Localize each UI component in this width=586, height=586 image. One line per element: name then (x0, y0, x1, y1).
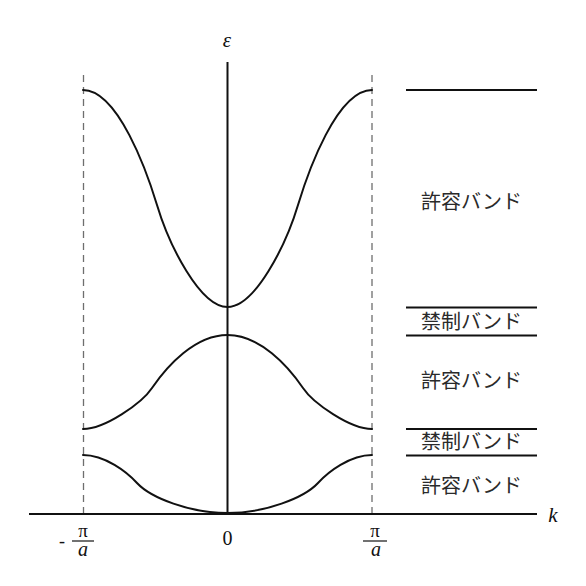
diagram-svg: ε k - π a 0 π a 許容バンド 禁制バンド 許容バンド 禁制 (0, 0, 586, 586)
tick-pi-over-a: π a (363, 520, 387, 560)
allowed-band-label-upper: 許容バンド (421, 190, 522, 214)
band-structure-diagram: ε k - π a 0 π a 許容バンド 禁制バンド 許容バンド 禁制 (0, 0, 586, 586)
allowed-band-label-middle: 許容バンド (421, 369, 522, 393)
tick-minus-pi-over-a: - π a (59, 520, 94, 560)
forbidden-band-label-upper: 禁制バンド (421, 310, 522, 334)
tick-minus-sign: - (59, 531, 65, 551)
forbidden-band-label-lower: 禁制バンド (421, 430, 522, 454)
tick-left-denominator: a (78, 538, 88, 560)
tick-right-denominator: a (371, 538, 381, 560)
tick-zero: 0 (223, 527, 233, 549)
wavevector-axis-label: k (548, 503, 558, 527)
energy-axis-label: ε (223, 28, 232, 52)
allowed-band-label-lower: 許容バンド (421, 474, 522, 498)
